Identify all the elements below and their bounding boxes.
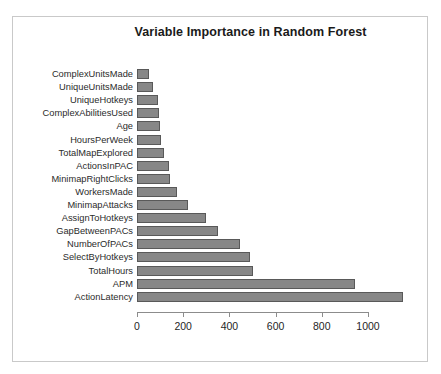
bar <box>137 174 170 184</box>
bar-row: WorkersMade <box>0 186 441 199</box>
category-label: ActionsInPAC <box>3 160 133 172</box>
x-axis-tick-label: 200 <box>174 320 192 332</box>
bar <box>137 108 159 118</box>
x-axis-tick <box>183 312 184 317</box>
bar-row: Age <box>0 120 441 133</box>
bar-row: ComplexAbilitiesUsed <box>0 107 441 120</box>
category-label: ComplexUnitsMade <box>3 68 133 80</box>
bar <box>137 148 164 158</box>
bar-row: HoursPerWeek <box>0 134 441 147</box>
category-label: UniqueUnitsMade <box>3 81 133 93</box>
bar-row: MinimapAttacks <box>0 199 441 212</box>
category-label: TotalMapExplored <box>3 147 133 159</box>
bar <box>137 82 153 92</box>
bar-row: TotalHours <box>0 265 441 278</box>
bar-row: NumberOfPACs <box>0 238 441 251</box>
x-axis-tick <box>229 312 230 317</box>
plot-area: ComplexUnitsMadeUniqueUnitsMadeUniqueHot… <box>0 0 441 374</box>
category-label: GapBetweenPACs <box>3 225 133 237</box>
x-axis-tick <box>137 312 138 317</box>
bar-row: APM <box>0 278 441 291</box>
bar <box>137 95 158 105</box>
bar <box>137 187 177 197</box>
bar <box>137 213 206 223</box>
category-label: SelectByHotkeys <box>3 251 133 263</box>
category-label: MinimapAttacks <box>3 199 133 211</box>
category-label: AssignToHotkeys <box>3 212 133 224</box>
category-label: ComplexAbilitiesUsed <box>3 107 133 119</box>
bar <box>137 279 355 289</box>
bar-row: SelectByHotkeys <box>0 251 441 264</box>
bar-row: MinimapRightClicks <box>0 173 441 186</box>
bar-row: GapBetweenPACs <box>0 225 441 238</box>
category-label: ActionLatency <box>3 291 133 303</box>
x-axis-tick-label: 0 <box>134 320 140 332</box>
bar <box>137 200 188 210</box>
bar <box>137 252 250 262</box>
bar <box>137 239 240 249</box>
bar-row: UniqueUnitsMade <box>0 81 441 94</box>
category-label: HoursPerWeek <box>3 134 133 146</box>
x-axis-tick <box>368 312 369 317</box>
x-axis-tick <box>276 312 277 317</box>
x-axis-tick-label: 400 <box>221 320 239 332</box>
chart-page: Variable Importance in Random Forest Com… <box>0 0 441 374</box>
x-axis-tick-label: 800 <box>313 320 331 332</box>
category-label: UniqueHotkeys <box>3 94 133 106</box>
bar <box>137 121 160 131</box>
bar <box>137 135 161 145</box>
bar <box>137 69 149 79</box>
x-axis-tick-label: 1000 <box>356 320 379 332</box>
bar <box>137 292 403 302</box>
category-label: Age <box>3 120 133 132</box>
x-axis-tick <box>322 312 323 317</box>
bar <box>137 266 253 276</box>
category-label: MinimapRightClicks <box>3 173 133 185</box>
category-label: APM <box>3 278 133 290</box>
bar-row: AssignToHotkeys <box>0 212 441 225</box>
bar-row: ActionsInPAC <box>0 160 441 173</box>
bar-row: TotalMapExplored <box>0 147 441 160</box>
bar-row: ComplexUnitsMade <box>0 68 441 81</box>
bar <box>137 226 218 236</box>
bar-row: UniqueHotkeys <box>0 94 441 107</box>
x-axis-tick-label: 600 <box>267 320 285 332</box>
bar <box>137 161 169 171</box>
category-label: NumberOfPACs <box>3 238 133 250</box>
category-label: TotalHours <box>3 265 133 277</box>
bar-row: ActionLatency <box>0 291 441 304</box>
category-label: WorkersMade <box>3 186 133 198</box>
x-axis-line <box>137 312 368 313</box>
